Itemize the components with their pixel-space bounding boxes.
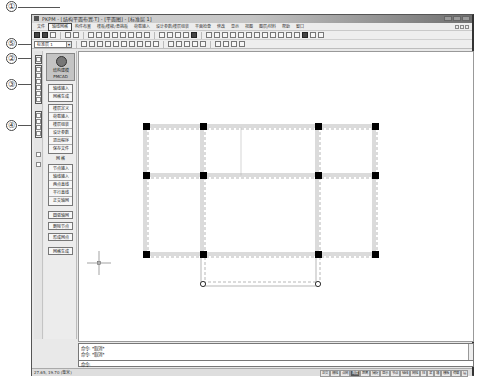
block-icon[interactable] (302, 32, 308, 38)
view-front-icon[interactable] (36, 73, 41, 78)
list-icon[interactable] (36, 162, 41, 167)
thickness-icon[interactable] (36, 131, 41, 136)
mdi-restore-button[interactable] (460, 25, 464, 29)
toggle-mesh[interactable]: 网格 (410, 370, 420, 377)
toggle-angle[interactable]: 角度 (350, 370, 360, 377)
toggle-layer[interactable]: 层 (461, 370, 468, 377)
save-icon[interactable] (34, 32, 40, 38)
text-icon[interactable] (310, 32, 316, 38)
menu-slabs[interactable]: 楼板/楼梯/悬挑板 (94, 24, 131, 30)
rectangle-icon[interactable] (137, 41, 143, 47)
toggle-column[interactable]: 柱 (420, 370, 427, 377)
arc-icon[interactable] (153, 41, 159, 47)
close-button[interactable] (462, 16, 470, 21)
mdi-close-button[interactable] (465, 25, 469, 29)
break-icon[interactable] (270, 32, 276, 38)
pin-icon[interactable] (36, 152, 41, 157)
menu-display[interactable]: 显示 (228, 24, 242, 30)
node-delete-icon[interactable] (192, 41, 198, 47)
redraw-icon[interactable] (136, 32, 142, 38)
rotate-icon[interactable] (230, 32, 236, 38)
side-item-axis-input[interactable]: 轴线输入 (49, 85, 72, 93)
table-icon[interactable] (231, 41, 237, 47)
menu-help[interactable]: 帮助 (279, 24, 293, 30)
toggle-slab[interactable]: 楼板 (441, 370, 451, 377)
zoom-window-icon[interactable] (88, 32, 94, 38)
fillet-icon[interactable] (286, 32, 292, 38)
polyline-icon[interactable] (121, 41, 127, 47)
pen-icon[interactable] (36, 125, 41, 130)
zoom-in-icon[interactable] (96, 32, 102, 38)
menu-view[interactable]: 视图 (242, 24, 256, 30)
view-3d-icon[interactable] (36, 85, 41, 90)
zoom-all-icon[interactable] (112, 32, 118, 38)
menu-tab-active[interactable]: 轴线网格 (48, 23, 72, 31)
maximize-button[interactable] (453, 16, 461, 21)
layer-down-icon[interactable] (89, 41, 95, 47)
view-side-icon[interactable] (36, 79, 41, 84)
menu-edit[interactable]: 修改 (214, 24, 228, 30)
toggle-node[interactable]: 节点 (390, 370, 400, 377)
menu-window[interactable]: 窗口 (293, 24, 307, 30)
extend-icon[interactable] (262, 32, 268, 38)
layer-up-icon[interactable] (81, 41, 87, 47)
layer-select[interactable]: 标准层 1 ▾ (34, 41, 72, 48)
minimize-button[interactable] (444, 16, 452, 21)
side-item-grid-generate[interactable]: 网格生成 (49, 93, 72, 101)
mirror-icon[interactable] (222, 32, 228, 38)
menu-assembly[interactable]: 设计参数/楼层组装 (153, 24, 192, 30)
command-scrollbar[interactable] (468, 344, 473, 360)
mdi-minimize-button[interactable] (455, 25, 459, 29)
toggle-grid[interactable]: 栅格 (330, 370, 340, 377)
undo-icon[interactable] (65, 32, 71, 38)
toggle-beam[interactable]: 梁 (427, 370, 434, 377)
linetype-icon[interactable] (175, 32, 181, 38)
toggle-axis[interactable]: 轴线 (400, 370, 410, 377)
open-icon[interactable] (42, 32, 48, 38)
dimension-icon[interactable] (318, 32, 324, 38)
side-item-ortho-grid[interactable]: 正交轴网 (49, 197, 72, 205)
chamfer-icon[interactable] (278, 32, 284, 38)
line-style-icon[interactable] (36, 119, 41, 124)
erase-icon[interactable] (294, 32, 300, 38)
measure-icon[interactable] (215, 41, 221, 47)
side-item-two-point-line[interactable]: 两点直线 (49, 181, 72, 189)
menu-loads[interactable]: 荷载输入 (131, 24, 153, 30)
move-icon[interactable] (206, 32, 212, 38)
zoom-previous-icon[interactable] (120, 32, 126, 38)
snap-icon[interactable] (200, 41, 206, 47)
side-item-form-nodes[interactable]: 形成网点 (48, 233, 73, 241)
settings-icon[interactable] (239, 41, 245, 47)
color-icon[interactable] (167, 32, 173, 38)
side-item-grid-gen[interactable]: 网格生成 (48, 247, 73, 255)
node-icon[interactable] (184, 41, 190, 47)
arc-grid-icon[interactable] (176, 41, 182, 47)
chevron-down-icon[interactable]: ▾ (66, 42, 71, 47)
side-item-load-input[interactable]: 荷载输入 (49, 113, 72, 121)
drawing-canvas[interactable] (78, 51, 474, 342)
side-item-floor-assembly[interactable]: 楼层组装 (49, 121, 72, 129)
select-icon[interactable] (36, 57, 41, 62)
view-section-icon[interactable] (36, 91, 41, 96)
query-icon[interactable] (223, 41, 229, 47)
array-icon[interactable] (238, 32, 244, 38)
menu-file[interactable]: 文件 (34, 24, 48, 30)
trim-icon[interactable] (254, 32, 260, 38)
offset-icon[interactable] (246, 32, 252, 38)
side-item-axis-line[interactable]: 轴线输入 (49, 173, 72, 181)
ortho-grid-icon[interactable] (168, 41, 174, 47)
zoom-extents-icon[interactable] (144, 32, 150, 38)
command-input[interactable]: 命令: (79, 360, 473, 368)
grid-icon[interactable] (97, 41, 103, 47)
side-item-node-input[interactable]: 节点输入 (49, 165, 72, 173)
pan-icon[interactable] (128, 32, 134, 38)
menu-layers[interactable]: 图层/材料 (256, 24, 279, 30)
toggle-snap[interactable]: 捕捉 (370, 370, 380, 377)
side-item-delete-node[interactable]: 删除节点 (48, 222, 73, 230)
parallel-line-icon[interactable] (129, 41, 135, 47)
toggle-display[interactable]: 显示 (380, 370, 390, 377)
side-item-exit[interactable]: 退出程序 (49, 137, 72, 145)
toggle-load[interactable]: 荷载 (451, 370, 461, 377)
circle-icon[interactable] (145, 41, 151, 47)
properties-icon[interactable] (183, 32, 189, 38)
